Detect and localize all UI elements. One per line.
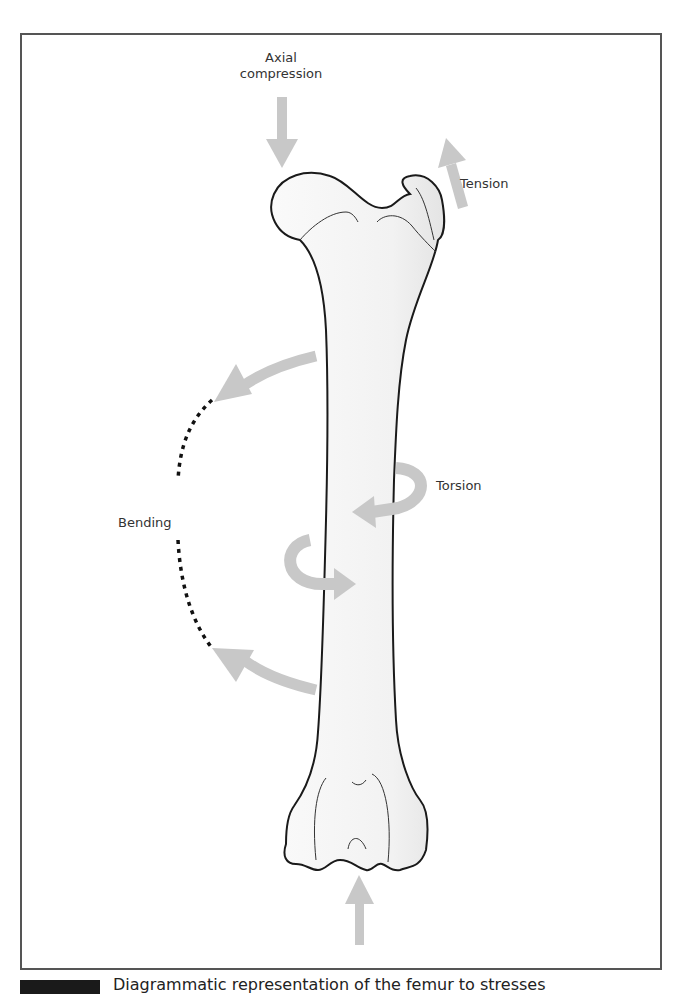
torsion-label: Torsion — [436, 478, 482, 494]
axial-label-line1: Axial — [236, 50, 326, 66]
axial-compression-arrow-top — [266, 97, 298, 168]
bending-label: Bending — [118, 515, 172, 531]
tension-label: Tension — [460, 176, 509, 192]
figure-caption: Diagrammatic representation of the femur… — [113, 975, 546, 995]
femur-bone — [271, 173, 444, 871]
bending-arrow-lower — [212, 648, 316, 690]
caption-figure-tag — [20, 980, 100, 994]
axial-compression-arrow-bottom — [345, 875, 374, 945]
axial-label-line2: compression — [236, 66, 326, 82]
bending-dotted-arc — [178, 400, 212, 648]
bending-arrow-upper — [214, 356, 316, 402]
axial-compression-label: Axial compression — [236, 50, 326, 82]
